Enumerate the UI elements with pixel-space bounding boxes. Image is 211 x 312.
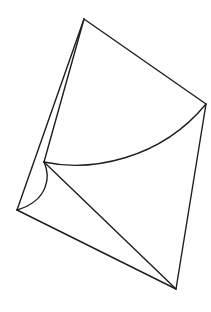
right-bottom-edge: [176, 104, 206, 289]
inner-right-arc: [44, 104, 206, 165]
diagram-canvas: [0, 0, 211, 312]
folded-square-diagram: [0, 0, 211, 312]
bottom-left-edge: [17, 210, 176, 289]
top-right-edge: [84, 19, 206, 104]
left-top-edge: [17, 19, 84, 210]
top-inner-edge: [44, 19, 84, 162]
inner-bottom-diagonal: [44, 162, 176, 289]
